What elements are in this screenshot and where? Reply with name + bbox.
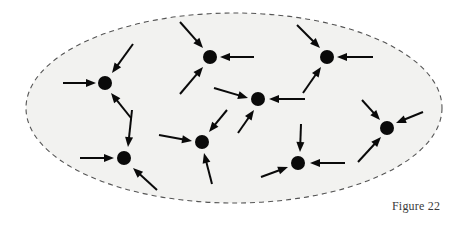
node-top-center bbox=[203, 50, 217, 64]
node-top-right bbox=[320, 50, 334, 64]
node-bottom-left bbox=[117, 151, 131, 165]
node-right bbox=[380, 121, 394, 135]
figure-caption: Figure 22 bbox=[392, 199, 440, 213]
arrow-shaft bbox=[300, 124, 301, 144]
node-bottom-right bbox=[291, 156, 305, 170]
node-center bbox=[251, 92, 265, 106]
node-bottom-center bbox=[195, 135, 209, 149]
dashed-ellipse-boundary bbox=[26, 13, 442, 203]
node-left bbox=[98, 76, 112, 90]
figure-22-container: Figure 22 bbox=[0, 0, 463, 230]
directed-graph-diagram bbox=[0, 0, 463, 230]
